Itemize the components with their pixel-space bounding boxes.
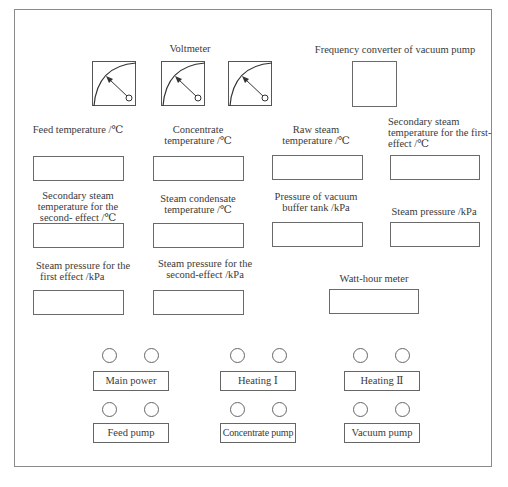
concentrate-pump-lamp-1[interactable]	[230, 402, 245, 417]
feed-pump-button[interactable]: Feed pump	[93, 423, 169, 443]
main-power-lamp-2[interactable]	[144, 348, 159, 363]
steam-pressure-second-effect-display	[153, 290, 244, 315]
vacuum-pump-lamp-1[interactable]	[353, 402, 368, 417]
secondary-steam-temp-second-effect-label: Secondary steam temperature for the seco…	[20, 190, 136, 223]
steam-pressure-label: Steam pressure /kPa	[376, 206, 492, 217]
secondary-steam-temp-second-effect-display	[33, 223, 124, 248]
frequency-converter-label: Frequency converter of vacuum pump	[310, 44, 480, 55]
watt-hour-meter-label: Watt-hour meter	[320, 273, 428, 284]
secondary-steam-temp-first-effect-label: Secondary steam temperature for the firs…	[374, 116, 498, 149]
heating-2-button[interactable]: Heating Ⅱ	[344, 371, 420, 391]
frequency-converter-display	[352, 61, 397, 107]
gauge-dial-icon	[162, 62, 206, 107]
steam-pressure-display	[390, 222, 480, 247]
raw-steam-temperature-display	[272, 155, 363, 180]
feed-temperature-display	[33, 156, 124, 181]
concentrate-temperature-display	[153, 156, 244, 181]
vacuum-pump-button[interactable]: Vacuum pump	[344, 423, 420, 443]
steam-condensate-temperature-label: Steam condensate temperature /℃	[140, 193, 256, 215]
heating-2-lamp-1[interactable]	[353, 348, 368, 363]
vacuum-buffer-tank-pressure-display	[272, 222, 363, 247]
vacuum-pump-lamp-2[interactable]	[395, 402, 410, 417]
steam-pressure-first-effect-display	[33, 290, 124, 315]
feed-temperature-label: Feed temperature /℃	[20, 124, 136, 135]
voltmeter-label: Voltmeter	[150, 43, 230, 54]
voltmeter-gauge-3	[228, 61, 272, 106]
concentrate-temperature-label: Concentrate temperature /℃	[140, 124, 256, 146]
vacuum-buffer-tank-pressure-label: Pressure of vacuum buffer tank /kPa	[258, 191, 374, 213]
main-power-button[interactable]: Main power	[93, 371, 169, 391]
gauge-dial-icon	[229, 62, 273, 107]
gauge-dial-icon	[93, 62, 137, 107]
secondary-steam-temp-first-effect-display	[390, 155, 480, 180]
heating-1-lamp-2[interactable]	[272, 348, 287, 363]
concentrate-pump-lamp-2[interactable]	[272, 402, 287, 417]
steam-condensate-temperature-display	[153, 223, 244, 248]
heating-1-button[interactable]: Heating Ⅰ	[220, 371, 296, 391]
voltmeter-gauge-1	[92, 61, 136, 106]
voltmeter-gauge-2	[161, 61, 205, 106]
heating-1-lamp-1[interactable]	[230, 348, 245, 363]
feed-pump-lamp-1[interactable]	[102, 402, 117, 417]
steam-pressure-second-effect-label: Steam pressure for the second-effect /kP…	[147, 258, 263, 280]
feed-pump-lamp-2[interactable]	[144, 402, 159, 417]
heating-2-lamp-2[interactable]	[395, 348, 410, 363]
steam-pressure-first-effect-label: Steam pressure for the first effect /kPa	[22, 260, 138, 282]
watt-hour-meter-display	[329, 289, 419, 314]
concentrate-pump-button[interactable]: Concentrate pump	[220, 423, 296, 443]
main-power-lamp-1[interactable]	[102, 348, 117, 363]
raw-steam-temperature-label: Raw steam temperature /℃	[258, 124, 374, 146]
